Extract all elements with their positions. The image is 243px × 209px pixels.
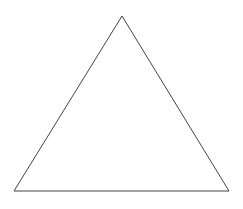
triangle-shape [14,16,229,191]
diagram-canvas [0,0,243,209]
